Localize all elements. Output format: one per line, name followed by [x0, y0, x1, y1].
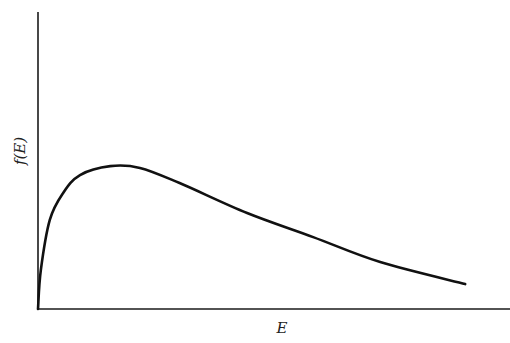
chart: E f(E)	[0, 0, 510, 343]
x-axis-label: E	[276, 319, 288, 337]
y-axis-label: f(E)	[11, 137, 29, 166]
data-curve	[38, 165, 465, 309]
